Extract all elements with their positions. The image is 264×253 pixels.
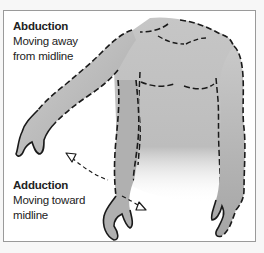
- abduction-caption: Abduction Moving away from midline: [13, 19, 93, 64]
- adduction-caption: Adduction Moving toward midline: [13, 178, 93, 223]
- adduction-title: Adduction: [13, 178, 93, 193]
- abduction-description: Moving away from midline: [13, 34, 93, 64]
- adduction-description: Moving toward midline: [13, 193, 93, 223]
- left-arm-at-side: [103, 80, 140, 240]
- abduction-title: Abduction: [13, 19, 93, 34]
